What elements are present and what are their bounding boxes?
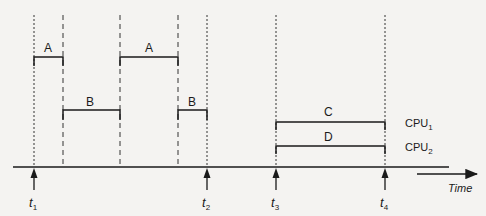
cpu2-label: CPU2 — [405, 141, 433, 156]
segment-c — [276, 122, 385, 130]
segment-a-1-label: A — [44, 41, 52, 55]
segment-d — [276, 146, 385, 154]
segment-b-1-label: B — [86, 95, 94, 109]
segment-a-2 — [120, 57, 178, 66]
segment-d-label: D — [324, 130, 333, 144]
arrowhead-t2 — [204, 168, 211, 178]
segment-b-2 — [178, 110, 207, 120]
arrowhead-t4 — [382, 168, 389, 178]
segment-b-1 — [63, 110, 120, 120]
segment-b-2-label: B — [188, 95, 196, 109]
guide-lines — [34, 15, 385, 167]
timing-diagram: A B A B C D CPU1 CPU2 Time t1 t2 t3 t4 — [0, 0, 486, 216]
arrowhead-t1 — [31, 168, 38, 178]
time-marker-t4: t4 — [380, 195, 389, 212]
time-marker-t1: t1 — [29, 195, 38, 212]
segment-c-label: C — [324, 105, 333, 119]
time-marker-t3: t3 — [271, 195, 280, 212]
cpu1-label: CPU1 — [405, 117, 433, 132]
time-marker-t2: t2 — [202, 195, 211, 212]
arrowhead-t3 — [273, 168, 280, 178]
segment-a-1 — [34, 57, 63, 66]
segment-a-2-label: A — [145, 41, 153, 55]
time-axis-label: Time — [448, 182, 472, 194]
time-marker-arrows — [31, 168, 389, 190]
